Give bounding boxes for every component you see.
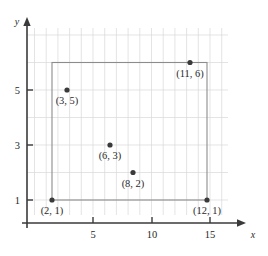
data-point (64, 87, 69, 92)
data-point (107, 142, 112, 147)
point-label: (11, 6) (176, 68, 204, 80)
plot-canvas: 5 10 15 1 3 5 x y (3, 5) (6, 3) (8, 2) (… (0, 0, 268, 256)
x-tick-label-15: 15 (205, 229, 216, 240)
point-label: (6, 3) (99, 150, 122, 162)
y-tick-label-5: 5 (15, 85, 20, 96)
x-axis-arrow (237, 219, 246, 226)
point-label: (2, 1) (41, 205, 64, 217)
point-label: (12, 1) (193, 205, 221, 217)
y-axis-arrow (23, 17, 30, 26)
x-axis-label: x (250, 229, 256, 240)
point-label: (3, 5) (56, 95, 79, 107)
coordinate-plot-figure: 5 10 15 1 3 5 x y (3, 5) (6, 3) (8, 2) (… (0, 0, 268, 256)
y-tick-label-3: 3 (15, 140, 20, 151)
x-tick-label-10: 10 (147, 229, 158, 240)
y-axis-ticks (27, 90, 33, 200)
point-label: (8, 2) (122, 178, 145, 190)
y-tick-label-1: 1 (15, 195, 20, 206)
data-point (130, 170, 135, 175)
x-axis-ticks (93, 217, 210, 223)
data-point (204, 197, 209, 202)
data-point (49, 197, 54, 202)
x-tick-label-5: 5 (90, 229, 95, 240)
y-axis-label: y (14, 16, 20, 27)
data-point (187, 60, 192, 65)
